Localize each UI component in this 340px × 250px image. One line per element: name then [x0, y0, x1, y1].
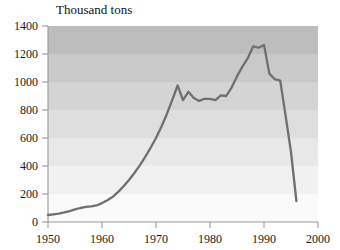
- x-tick-label: 1980: [198, 232, 222, 246]
- y-tick-label: 200: [20, 187, 38, 201]
- y-tick-label: 800: [20, 103, 38, 117]
- band-1000-1200: [48, 54, 318, 82]
- y-tick-label: 600: [20, 131, 38, 145]
- x-tick-label: 2000: [306, 232, 330, 246]
- y-tick-label: 1400: [14, 19, 38, 33]
- chart-container: 0200400600800100012001400 19501960197019…: [0, 0, 340, 250]
- y-axis: 0200400600800100012001400: [14, 19, 48, 229]
- line-chart: 0200400600800100012001400 19501960197019…: [0, 0, 340, 250]
- y-tick-label: 400: [20, 159, 38, 173]
- band-600-800: [48, 110, 318, 138]
- x-tick-label: 1960: [90, 232, 114, 246]
- plot-background-bands: [48, 26, 318, 222]
- band-0-200: [48, 194, 318, 222]
- band-800-1000: [48, 82, 318, 110]
- y-tick-label: 1200: [14, 47, 38, 61]
- x-tick-label: 1990: [252, 232, 276, 246]
- y-tick-label: 1000: [14, 75, 38, 89]
- band-1200-1400: [48, 26, 318, 54]
- y-tick-label: 0: [32, 215, 38, 229]
- x-tick-label: 1970: [144, 232, 168, 246]
- band-400-600: [48, 138, 318, 166]
- x-tick-label: 1950: [36, 232, 60, 246]
- band-200-400: [48, 166, 318, 194]
- chart-title: Thousand tons: [56, 2, 132, 17]
- x-axis: 195019601970198019902000: [36, 222, 330, 246]
